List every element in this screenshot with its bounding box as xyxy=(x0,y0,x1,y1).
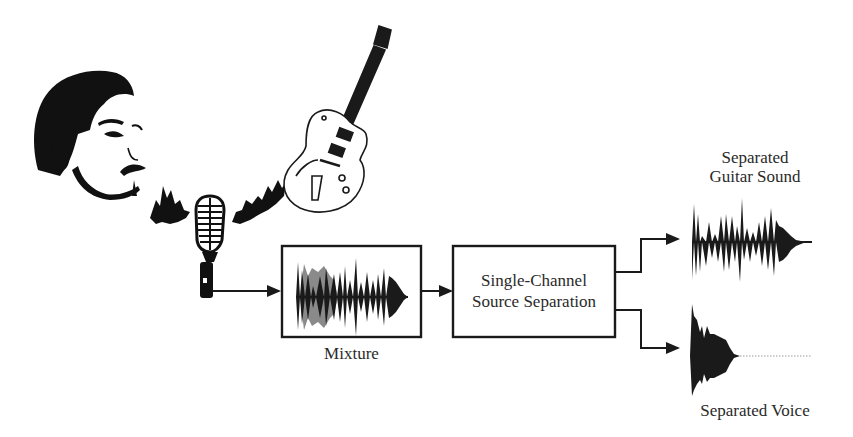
guitar-output-label-line2: Guitar Sound xyxy=(680,167,830,186)
voice-waveform-icon xyxy=(690,304,812,396)
singer-face-icon xyxy=(34,71,146,200)
separator-label: Single-Channel Source Separation xyxy=(453,245,615,337)
edge-separator-to-voice xyxy=(615,310,678,348)
guitar-waveform-icon xyxy=(692,198,812,282)
microphone-icon xyxy=(196,196,224,298)
separator-label-line1: Single-Channel xyxy=(481,270,587,291)
guitar-icon xyxy=(284,26,391,212)
mixture-box xyxy=(282,246,421,337)
mixture-label: Mixture xyxy=(282,344,421,363)
guitar-output-label: Separated Guitar Sound xyxy=(680,148,830,186)
separator-label-line2: Source Separation xyxy=(472,291,596,312)
edge-separator-to-guitar xyxy=(615,239,678,272)
guitar-output-label-line1: Separated xyxy=(680,148,830,167)
voice-output-label: Separated Voice xyxy=(670,401,840,420)
guitar-soundwave-icon xyxy=(232,180,286,224)
voice-soundwave-icon xyxy=(150,186,190,224)
